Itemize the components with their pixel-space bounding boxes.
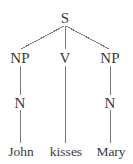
- syntax-tree-figure: SNPVNPNNJohnkissesMary: [0, 0, 133, 164]
- tree-node-john: John: [8, 145, 34, 159]
- tree-node-mary: Mary: [96, 145, 125, 159]
- tree-edge-s-np-right: [66, 26, 109, 49]
- tree-node-np-left: NP: [10, 51, 30, 66]
- tree-node-s: S: [61, 11, 70, 26]
- tree-node-n-left: N: [14, 96, 25, 111]
- tree-node-np-right: NP: [100, 51, 120, 66]
- tree-node-kisses: kisses: [50, 145, 82, 159]
- tree-edge-s-np-left: [21, 26, 64, 49]
- tree-node-n-right: N: [104, 96, 115, 111]
- tree-node-v: V: [59, 51, 70, 66]
